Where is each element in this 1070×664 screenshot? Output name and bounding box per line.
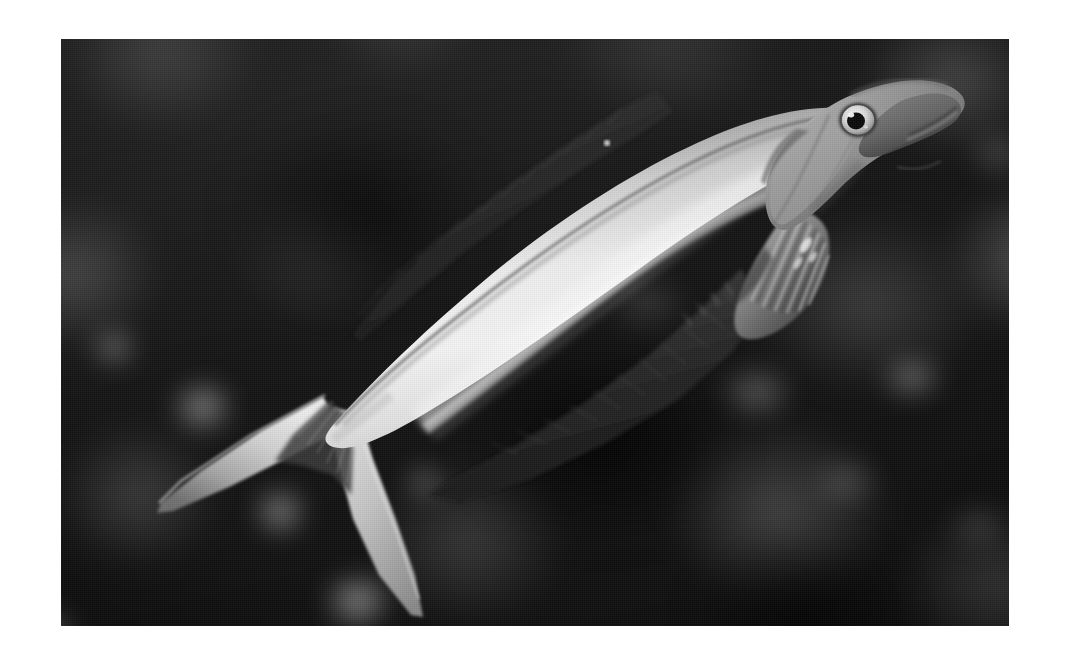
photograph	[61, 39, 1009, 626]
fish-head	[761, 80, 965, 230]
bubble-highlight	[604, 140, 610, 146]
fish-subject	[61, 39, 1009, 626]
fish-eye	[839, 103, 877, 137]
eye-catchlight	[848, 113, 854, 118]
photo-page	[0, 0, 1070, 664]
